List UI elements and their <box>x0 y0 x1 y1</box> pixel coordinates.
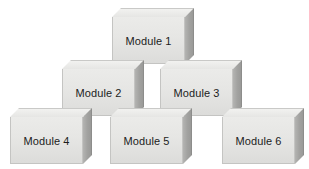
block-front-face: Module 6 <box>222 117 295 164</box>
block-side-face <box>295 108 304 164</box>
block-side-face <box>185 8 194 64</box>
module-label: Module 4 <box>23 136 69 147</box>
module-block[interactable]: Module 4 <box>10 108 92 164</box>
module-label: Module 1 <box>125 36 171 47</box>
diagram-canvas: Module 1Module 2Module 3Module 4Module 5… <box>0 0 309 169</box>
block-top-face <box>112 8 194 17</box>
module-label: Module 2 <box>75 88 121 99</box>
module-block[interactable]: Module 5 <box>110 108 192 164</box>
block-top-face <box>10 108 92 117</box>
block-top-face <box>222 108 304 117</box>
module-label: Module 3 <box>173 88 219 99</box>
block-front-face: Module 4 <box>10 117 83 164</box>
block-top-face <box>160 60 242 69</box>
block-side-face <box>83 108 92 164</box>
block-side-face <box>183 108 192 164</box>
block-top-face <box>110 108 192 117</box>
module-label: Module 6 <box>235 136 281 147</box>
block-front-face: Module 1 <box>112 17 185 64</box>
module-label: Module 5 <box>123 136 169 147</box>
block-front-face: Module 5 <box>110 117 183 164</box>
module-block[interactable]: Module 6 <box>222 108 304 164</box>
block-top-face <box>62 60 144 69</box>
module-block[interactable]: Module 1 <box>112 8 194 64</box>
